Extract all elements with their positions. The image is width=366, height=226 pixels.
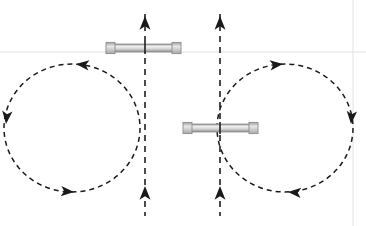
upper-bar-magnet[interactable]	[106, 42, 181, 53]
upper-magnet-right-cap	[172, 42, 181, 53]
right-axis-axis-arrow-up-lower	[215, 186, 226, 200]
upper-magnet-shaft	[111, 44, 177, 52]
left-loop-path	[4, 64, 140, 192]
diagram-canvas	[0, 0, 366, 226]
lower-magnet-left-cap	[183, 122, 192, 133]
background-guides	[0, 0, 366, 226]
diagram-svg	[0, 0, 366, 226]
lower-magnet-right-cap	[249, 122, 258, 133]
right-vertical-axis	[215, 14, 226, 216]
upper-magnet-left-cap	[106, 42, 115, 53]
left-field-loop	[1, 59, 140, 197]
field-loops	[1, 59, 357, 198]
bar-magnets	[106, 42, 258, 133]
left-loop-arrow-top	[75, 59, 89, 71]
axis-over-magnet-segments	[145, 42, 220, 134]
left-axis-axis-arrow-up-lower	[140, 186, 151, 200]
left-loop-arrow-left	[1, 111, 13, 125]
right-loop-arrow-bottom	[288, 187, 302, 198]
